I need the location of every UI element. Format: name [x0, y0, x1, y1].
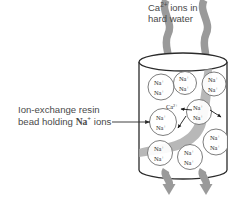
bead-caption-prefix: bead holding — [18, 117, 76, 128]
diagram-canvas: Na+ Na+ Na+ Na+ Na+ Na+ Na+ Na+ Na+ — [0, 0, 236, 197]
bead-caption-line1: Ion-exchange resin — [18, 104, 111, 115]
resin-bead: Na+ Na+ — [187, 100, 212, 125]
resin-bead: Na+ Na+ — [174, 72, 197, 95]
resin-bead: Na+ Na+ — [202, 72, 226, 96]
resin-bead: Na+ Na+ — [178, 145, 203, 170]
resin-bead: Na+ Na+ — [203, 129, 229, 155]
calcium-charge: 2+ — [160, 1, 167, 8]
bead-caption-line2: bead holding Na+ ions — [18, 115, 111, 128]
resin-bead: Na+ Na+ — [148, 74, 174, 100]
resin-bead-highlighted: Na+ Na+ — [150, 109, 177, 136]
resin-bead: Na+ Na+ — [148, 141, 173, 166]
inflow-caption-rest: ions in — [168, 2, 198, 13]
bead-caption-suffix: ions — [91, 117, 111, 128]
bead-caption: Ion-exchange resin bead holding Na+ ions — [18, 104, 111, 128]
inflow-caption: Ca2+ ions in hard water — [148, 1, 198, 25]
inflow-caption-line1: Ca2+ ions in — [148, 1, 198, 13]
ion-exchange-diagram: Na+ Na+ Na+ Na+ Na+ Na+ Na+ Na+ Na+ — [0, 0, 236, 197]
calcium-symbol: Ca — [148, 2, 160, 13]
column-top-rim — [139, 53, 227, 71]
inflow-caption-line2: hard water — [148, 13, 198, 24]
sodium-symbol: Na — [76, 117, 88, 128]
